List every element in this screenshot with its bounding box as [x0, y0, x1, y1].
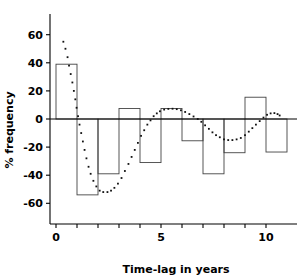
y-tick-label: 0	[35, 113, 43, 126]
curve-dot	[255, 124, 257, 126]
curve-dot	[266, 114, 268, 116]
histogram-bar	[182, 119, 203, 141]
curve-dot	[113, 187, 115, 189]
histogram-bar	[119, 108, 140, 119]
curve-dot	[76, 107, 78, 109]
curve-dot	[167, 108, 169, 110]
curve-dot	[80, 132, 82, 134]
curve-dot	[277, 113, 279, 115]
curve-dot	[117, 183, 119, 185]
curve-dot	[251, 127, 253, 129]
curve-dot	[184, 111, 186, 113]
y-tick-label: 20	[28, 85, 44, 98]
curve-dot	[71, 82, 73, 84]
x-axis-title: Time-lag in years	[122, 263, 230, 276]
curve-dot	[77, 115, 79, 117]
curve-dot	[110, 190, 112, 192]
curve-dot	[140, 135, 142, 137]
curve-dot	[68, 65, 70, 67]
curve-dot	[74, 98, 76, 100]
histogram-bar	[224, 119, 245, 153]
curve-dot	[193, 116, 195, 118]
x-axis	[50, 224, 297, 228]
curve-dot	[208, 128, 210, 130]
curve-dot	[236, 138, 238, 140]
curve-dot	[73, 90, 75, 92]
plot-bars	[56, 64, 287, 195]
curve-dot	[65, 48, 67, 50]
curve-dot	[172, 108, 174, 110]
chart-canvas: -60-40-200204060 0510 Time-lag in years …	[0, 0, 304, 278]
curve-dot	[200, 121, 202, 123]
y-tick-label: 40	[28, 57, 44, 70]
histogram-bar	[98, 119, 119, 174]
curve-dot	[212, 131, 214, 133]
curve-dot	[143, 129, 145, 131]
curve-dot	[134, 149, 136, 151]
y-tick-labels: -60-40-200204060	[23, 29, 43, 211]
curve-dot	[274, 112, 276, 114]
y-tick-label: -20	[23, 141, 43, 154]
curve-dot	[159, 110, 161, 112]
curve-dot	[121, 177, 123, 179]
curve-dot	[62, 41, 64, 43]
y-tick-label: -40	[23, 169, 43, 182]
curve-dot	[263, 117, 265, 119]
histogram-bar	[203, 119, 224, 174]
x-tick-label: 5	[157, 231, 165, 244]
x-tick-labels: 0510	[52, 231, 274, 244]
y-axis-title: % frequency	[3, 91, 16, 168]
curve-dot	[107, 191, 109, 193]
curve-dot	[188, 113, 190, 115]
curve-dot	[232, 139, 234, 141]
curve-dot	[102, 191, 104, 193]
curve-dot	[180, 109, 182, 111]
curve-dot	[240, 137, 242, 139]
curve-dot	[248, 131, 250, 133]
curve-dot	[86, 157, 88, 159]
curve-dot	[204, 124, 206, 126]
curve-dot	[227, 139, 229, 141]
curve-dot	[70, 73, 72, 75]
curve-dot	[84, 149, 86, 151]
histogram-bar	[77, 119, 98, 195]
curve-dot	[259, 120, 261, 122]
x-tick-label: 10	[258, 231, 274, 244]
curve-dot	[197, 118, 199, 120]
curve-dot	[219, 136, 221, 138]
curve-dot	[99, 190, 101, 192]
curve-dot	[124, 170, 126, 172]
curve-dot	[223, 138, 225, 140]
curve-dot	[244, 134, 246, 136]
curve-dot	[128, 163, 130, 165]
curve-dot	[279, 115, 281, 117]
curve-dot	[176, 108, 178, 110]
frequency-timelag-chart: -60-40-200204060 0510 Time-lag in years …	[0, 0, 304, 278]
curve-dot	[156, 112, 158, 114]
curve-dot	[163, 109, 165, 111]
curve-dot	[88, 166, 90, 168]
curve-dot	[92, 180, 94, 182]
y-axis	[46, 14, 50, 224]
curve-dot	[67, 56, 69, 58]
histogram-bar	[140, 119, 161, 163]
curve-dot	[82, 141, 84, 143]
curve-dot	[215, 134, 217, 136]
x-tick-label: 0	[52, 231, 60, 244]
curve-dot	[131, 156, 133, 158]
curve-dot	[150, 120, 152, 122]
curve-dot	[146, 124, 148, 126]
y-tick-label: -60	[23, 197, 43, 210]
curve-dot	[270, 112, 272, 114]
curve-dot	[153, 115, 155, 117]
curve-dot	[90, 173, 92, 175]
histogram-bar	[266, 119, 287, 152]
histogram-bar	[245, 97, 266, 119]
y-tick-label: 60	[28, 29, 44, 42]
curve-dot	[79, 124, 81, 126]
curve-dot	[95, 186, 97, 188]
curve-dot	[137, 142, 139, 144]
overlay-dotted-curve	[62, 41, 280, 193]
